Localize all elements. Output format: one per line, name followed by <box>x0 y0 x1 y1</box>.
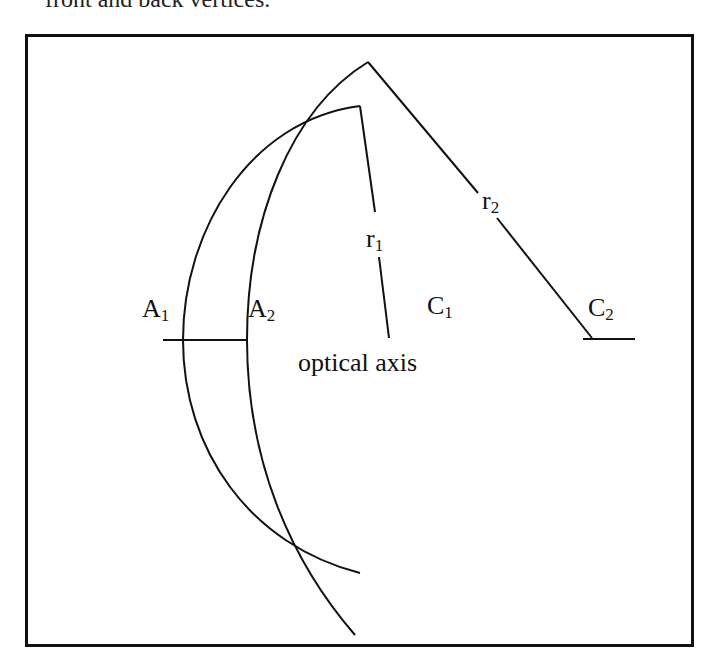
r2-line-upper <box>368 62 478 193</box>
r1-line-lower <box>379 257 389 338</box>
label-A1: A1 <box>142 296 169 324</box>
label-A2: A2 <box>248 296 275 324</box>
lens-diagram <box>0 0 719 670</box>
label-C2: C2 <box>588 295 614 323</box>
label-r1: r1 <box>366 226 383 254</box>
r2-line-lower <box>497 218 592 338</box>
optical-axis-label: optical axis <box>298 350 417 376</box>
r1-line-upper <box>360 106 375 212</box>
label-C1: C1 <box>427 293 453 321</box>
label-r2: r2 <box>482 188 499 216</box>
